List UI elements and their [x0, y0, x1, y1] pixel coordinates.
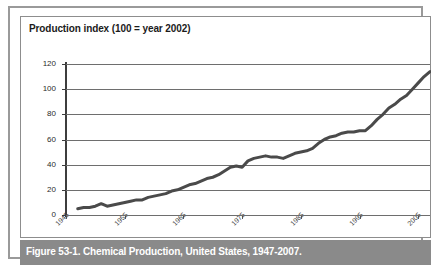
- plot-area: [66, 64, 430, 215]
- chart-title: Production index (100 = year 2002): [29, 23, 190, 34]
- chart-panel: Production index (100 = year 2002) 02040…: [20, 16, 431, 238]
- figure-root: Production index (100 = year 2002) 02040…: [0, 0, 431, 271]
- series-polyline: [78, 72, 430, 209]
- figure-caption-bar: Figure 53-1. Chemical Production, United…: [20, 240, 431, 265]
- figure-caption-text: Figure 53-1. Chemical Production, United…: [26, 246, 302, 257]
- series-line-chemical-production: [66, 64, 430, 215]
- gridline-y-0: [66, 215, 430, 216]
- y-tick-label-120: 120: [32, 59, 56, 68]
- y-tick-label-20: 20: [32, 185, 56, 194]
- y-tick-label-100: 100: [32, 84, 56, 93]
- y-tick-label-80: 80: [32, 109, 56, 118]
- y-tick-label-0: 0: [32, 210, 56, 219]
- y-tick-label-40: 40: [32, 160, 56, 169]
- figure-frame: Production index (100 = year 2002) 02040…: [8, 6, 423, 259]
- y-tick-label-60: 60: [32, 135, 56, 144]
